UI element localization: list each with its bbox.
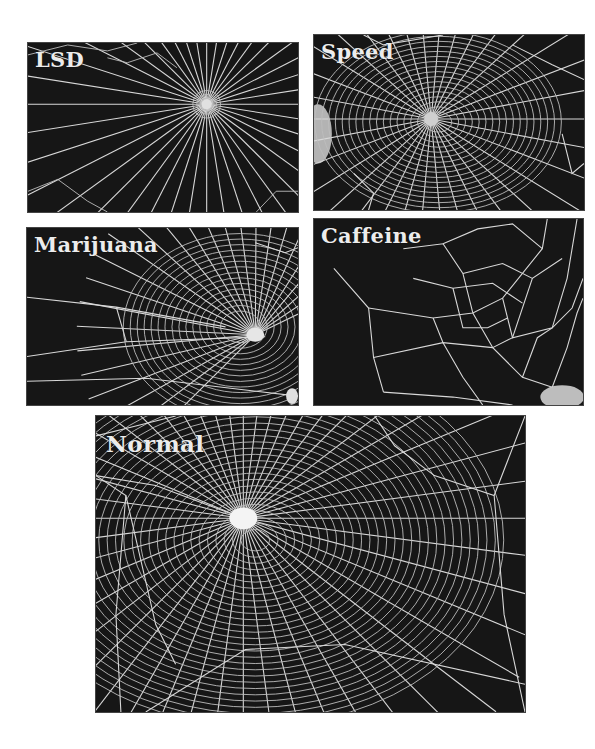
panel-label: Normal (106, 430, 204, 457)
panel-caffeine-web: Caffeine (313, 218, 584, 406)
panel-label: LSD (35, 47, 84, 72)
spider-web-normal-image (96, 416, 525, 712)
panel-speed-web: Speed (313, 34, 585, 211)
panel-marijuana-web: Marijuana (26, 227, 299, 406)
panel-label: Speed (321, 39, 394, 64)
panel-label: Caffeine (321, 223, 422, 248)
panel-normal-web: Normal (95, 415, 526, 713)
panel-label: Marijuana (34, 232, 158, 257)
panel-lsd-web: LSD (27, 42, 299, 213)
